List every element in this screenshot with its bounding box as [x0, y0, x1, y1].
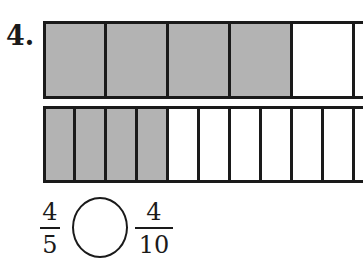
bar-cell-empty: [324, 109, 355, 180]
comparison-answer-circle[interactable]: [72, 197, 128, 258]
bar-cell-shaded: [107, 24, 169, 96]
left-fraction: 4 5: [40, 198, 60, 259]
problem-number: 4.: [6, 20, 34, 51]
bar-cell-empty: [262, 109, 293, 180]
fraction-bar-tenths: [43, 106, 363, 183]
bar-cell-empty: [231, 109, 262, 180]
left-numerator: 4: [42, 198, 57, 226]
bar-cell-shaded: [231, 24, 293, 96]
bar-cell-shaded: [76, 109, 107, 180]
bar-cell-empty: [200, 109, 231, 180]
bar-cell-shaded: [107, 109, 138, 180]
left-denominator: 5: [42, 231, 57, 259]
right-denominator: 10: [139, 231, 170, 259]
bar-cell-shaded: [46, 24, 107, 96]
bar-cell-shaded: [169, 24, 231, 96]
bar-cell-empty: [293, 24, 355, 96]
bar-cell-shaded: [138, 109, 169, 180]
right-numerator: 4: [146, 198, 161, 226]
bar-cell-empty: [293, 109, 324, 180]
fraction-bar-line: [135, 227, 173, 229]
fraction-bar-fifths: [43, 21, 363, 99]
bar-cell-shaded: [46, 109, 76, 180]
right-fraction: 4 10: [135, 198, 173, 259]
fraction-bar-line: [40, 227, 60, 229]
bar-cell-empty: [169, 109, 200, 180]
